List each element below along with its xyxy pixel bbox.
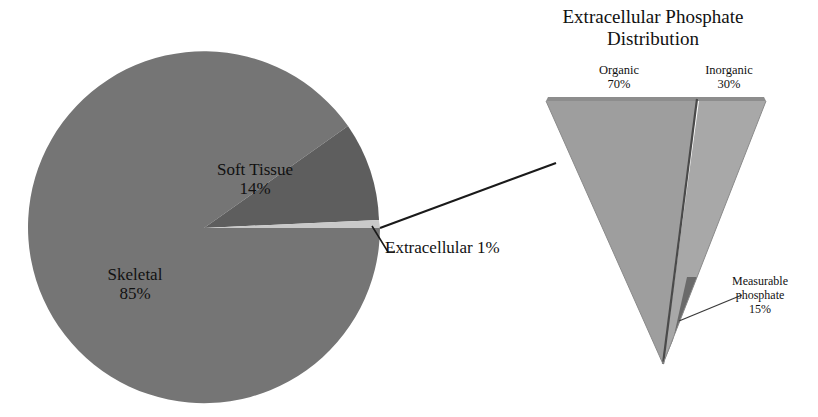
pie-label-soft-tissue-name: Soft Tissue — [217, 160, 293, 179]
cone-label-organic: Organic 70% — [599, 63, 639, 91]
cone-title-line2: Distribution — [563, 28, 744, 50]
pie-label-soft-tissue-percent: 14% — [217, 179, 293, 198]
pie-label-soft-tissue: Soft Tissue 14% — [217, 160, 293, 198]
cone-chart — [546, 97, 766, 364]
cone-label-measurable-line1: Measurable — [732, 274, 788, 288]
figure-container: Soft Tissue 14% Skeletal 85% Extracellul… — [0, 0, 818, 417]
cone-chart-title: Extracellular Phosphate Distribution — [563, 6, 744, 51]
cone-label-measurable-phosphate: Measurable phosphate 15% — [732, 275, 788, 317]
cone-label-organic-percent: 70% — [599, 77, 639, 91]
pie-chart — [28, 51, 380, 403]
cone-label-measurable-percent: 15% — [732, 303, 788, 317]
cone-label-inorganic: Inorganic 30% — [705, 63, 753, 91]
pie-label-skeletal-name: Skeletal — [108, 265, 163, 284]
pie-label-skeletal-percent: 85% — [108, 284, 163, 303]
pie-label-skeletal: Skeletal 85% — [108, 265, 163, 303]
cone-label-inorganic-name: Inorganic — [705, 63, 753, 77]
cone-label-organic-name: Organic — [599, 63, 639, 77]
pie-label-extracellular: Extracellular 1% — [385, 238, 500, 257]
extracellular-leader-line — [380, 163, 556, 228]
cone-label-measurable-line2: phosphate — [732, 289, 788, 303]
figure-graphics — [0, 0, 818, 417]
cone-label-inorganic-percent: 30% — [705, 77, 753, 91]
cone-title-line1: Extracellular Phosphate — [563, 6, 744, 27]
cone-rim — [546, 97, 766, 101]
